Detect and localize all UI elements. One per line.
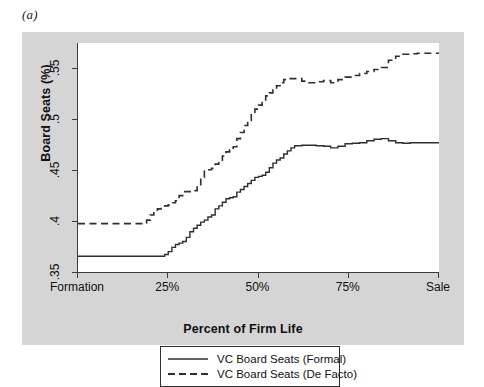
plot-area: [77, 43, 439, 273]
x-axis-title: Percent of Firm Life: [22, 322, 464, 336]
panel-label: (a): [22, 7, 38, 23]
x-tick-mark: [348, 273, 349, 278]
x-tick-label: 50%: [245, 280, 269, 294]
x-tick-mark: [258, 273, 259, 278]
x-tick-label: Sale: [426, 280, 450, 294]
y-tick-label: .4: [48, 204, 62, 238]
graph-region: Board Seats (%) .35.4.45.5.55 Formation2…: [22, 32, 464, 345]
x-tick-label: 75%: [336, 280, 360, 294]
series-line-formal: [78, 139, 439, 257]
x-tick-mark: [438, 273, 439, 278]
plot-lines: [78, 43, 439, 272]
legend: VC Board Seats (Formal) VC Board Seats (…: [160, 346, 340, 387]
legend-item-formal: VC Board Seats (Formal): [167, 351, 333, 366]
legend-item-de-facto: VC Board Seats (De Facto): [167, 366, 333, 381]
y-tick-label: .5: [48, 102, 62, 136]
legend-key-solid-icon: [167, 353, 209, 365]
legend-label-de-facto: VC Board Seats (De Facto): [217, 368, 357, 380]
x-tick-label: 25%: [155, 280, 179, 294]
y-tick-label: .55: [48, 51, 62, 85]
legend-label-formal: VC Board Seats (Formal): [217, 353, 346, 365]
y-tick-label: .45: [48, 153, 62, 187]
x-tick-mark: [167, 273, 168, 278]
legend-key-dashed-icon: [167, 368, 209, 380]
x-tick-mark: [77, 273, 78, 278]
x-tick-label: Formation: [50, 280, 104, 294]
